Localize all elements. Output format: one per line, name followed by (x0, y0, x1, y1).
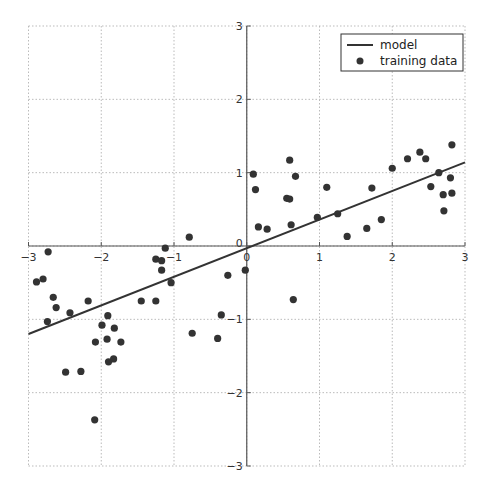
data-point (404, 155, 411, 162)
x-tick-label: 3 (462, 251, 469, 264)
data-point (189, 330, 196, 337)
data-point (66, 309, 73, 316)
scatter-plot: −3−2−10123−3−2−10123 model training data (0, 0, 489, 490)
data-point (440, 191, 447, 198)
data-point (252, 186, 259, 193)
y-tick-label: 0 (236, 237, 243, 250)
data-point (105, 358, 112, 365)
data-point (85, 297, 92, 304)
data-point (117, 338, 124, 345)
y-tick-label: −1 (227, 313, 243, 326)
data-point (92, 338, 99, 345)
data-point (33, 278, 40, 285)
x-tick-label: 1 (316, 251, 323, 264)
data-point (427, 183, 434, 190)
data-point (288, 221, 295, 228)
data-point (447, 174, 454, 181)
data-point (158, 267, 165, 274)
data-point (138, 297, 145, 304)
data-point (50, 294, 57, 301)
y-tick-label: 2 (236, 93, 243, 106)
data-point (448, 190, 455, 197)
data-point (286, 195, 293, 202)
data-point (416, 149, 423, 156)
data-point (62, 369, 69, 376)
y-tick-label: −3 (227, 460, 243, 473)
data-point (440, 207, 447, 214)
data-point (344, 233, 351, 240)
data-point (422, 155, 429, 162)
data-point (162, 245, 169, 252)
legend-training-label: training data (380, 54, 457, 68)
data-point (323, 184, 330, 191)
data-point (45, 248, 52, 255)
data-point (224, 272, 231, 279)
x-tick-label: −1 (166, 251, 182, 264)
data-point (98, 322, 105, 329)
x-tick-label: 2 (389, 251, 396, 264)
legend: model training data (341, 34, 463, 71)
data-point (363, 225, 370, 232)
y-tick-label: 1 (236, 167, 243, 180)
data-point (103, 336, 110, 343)
y-tick-label: −2 (227, 387, 243, 400)
data-point (186, 234, 193, 241)
x-tick-label: −2 (93, 251, 109, 264)
data-point (250, 171, 257, 178)
legend-model-label: model (380, 38, 417, 52)
y-tick-label: 3 (236, 20, 243, 33)
x-tick-label: 0 (243, 251, 250, 264)
data-point (389, 165, 396, 172)
data-point (264, 226, 271, 233)
data-point (448, 141, 455, 148)
data-point (292, 173, 299, 180)
data-point (111, 325, 118, 332)
data-point (368, 184, 375, 191)
data-point (39, 275, 46, 282)
data-point (214, 335, 221, 342)
data-point (242, 267, 249, 274)
data-point (152, 297, 159, 304)
data-point (53, 304, 60, 311)
data-point (158, 257, 165, 264)
data-point (255, 223, 262, 230)
data-point (91, 416, 98, 423)
legend-dot-icon (357, 58, 364, 65)
data-point (77, 368, 84, 375)
data-point (286, 157, 293, 164)
data-point (167, 279, 174, 286)
x-tick-label: −3 (20, 251, 36, 264)
data-point (378, 216, 385, 223)
chart: −3−2−10123−3−2−10123 model training data (0, 0, 489, 490)
data-point (218, 311, 225, 318)
data-point (104, 312, 111, 319)
data-point (290, 296, 297, 303)
data-point (44, 318, 51, 325)
